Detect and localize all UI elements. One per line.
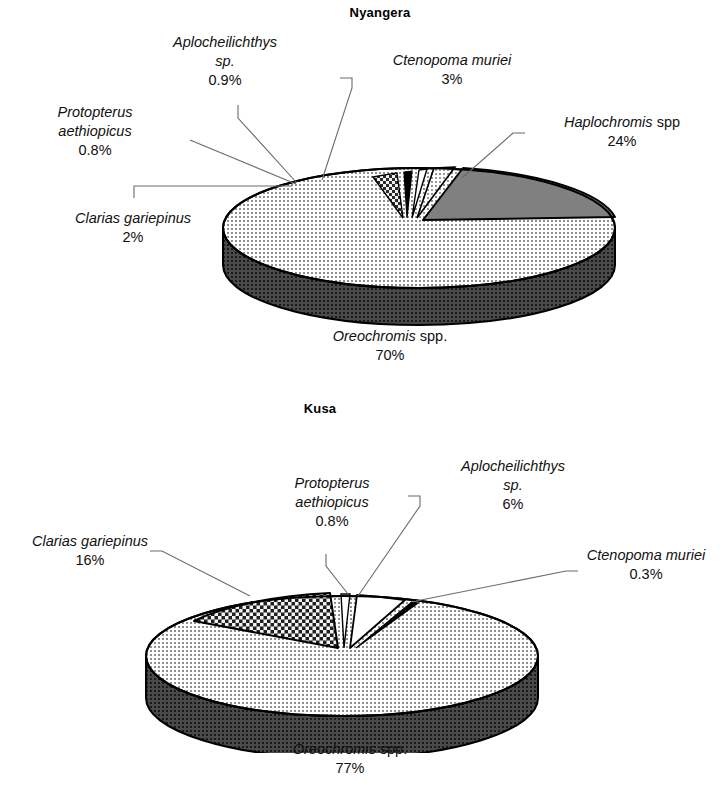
label-genus: Oreochromis	[333, 328, 416, 344]
label-percent: 0.8%	[242, 512, 422, 531]
label-genus-line: Oreochromis spp.	[270, 327, 510, 346]
label-epithet: spp.	[420, 328, 447, 344]
label-epithet: spp.	[380, 741, 407, 757]
label-genus: Protopterus	[0, 103, 190, 122]
label-genus: Protopterus	[242, 474, 422, 493]
label-ctenopoma-kusa: Ctenopoma muriei 0.3%	[566, 546, 726, 584]
pie-chart-nyangera	[215, 160, 625, 335]
label-genus: Ctenopoma muriei	[342, 51, 562, 70]
label-oreochromis-nyangera: Oreochromis spp. 70%	[270, 327, 510, 365]
label-genus: Haplochromis	[564, 114, 653, 130]
label-percent: 16%	[0, 551, 180, 570]
label-percent: 0.9%	[130, 71, 320, 90]
label-epithet: spp	[657, 114, 680, 130]
chart-title-kusa: Kusa	[220, 401, 420, 416]
chart-title-nyangera: Nyangera	[280, 5, 480, 20]
chart-panel-kusa: Kusa	[0, 396, 726, 794]
label-percent: 77%	[230, 759, 470, 778]
chart-panel-nyangera: Nyangera	[0, 0, 726, 396]
label-clarias-kusa: Clarias gariepinus 16%	[0, 532, 180, 570]
label-percent: 2%	[18, 228, 248, 247]
label-percent: 24%	[518, 132, 726, 151]
label-oreochromis-kusa: Oreochromis spp. 77%	[230, 740, 470, 778]
label-percent: 6%	[418, 495, 608, 514]
label-haplochromis-nyangera: Haplochromis spp 24%	[518, 113, 726, 151]
label-epithet: sp.	[130, 52, 320, 71]
label-percent: 0.3%	[566, 565, 726, 584]
label-percent: 0.8%	[0, 141, 190, 160]
label-genus-line: Haplochromis spp	[518, 113, 726, 132]
label-clarias-nyangera: Clarias gariepinus 2%	[18, 209, 248, 247]
label-percent: 70%	[270, 346, 510, 365]
label-genus: Clarias gariepinus	[18, 209, 248, 228]
label-ctenopoma-nyangera: Ctenopoma muriei 3%	[342, 51, 562, 89]
label-genus: Aplocheilichthys	[418, 457, 608, 476]
label-genus: Clarias gariepinus	[0, 532, 180, 551]
label-epithet: aethiopicus	[242, 493, 422, 512]
label-epithet: sp.	[418, 476, 608, 495]
label-aplocheilichthys-kusa: Aplocheilichthys sp. 6%	[418, 457, 608, 514]
label-aplocheilichthys-nyangera: Aplocheilichthys sp. 0.9%	[130, 33, 320, 90]
label-genus: Aplocheilichthys	[130, 33, 320, 52]
label-epithet: aethiopicus	[0, 122, 190, 141]
label-genus: Ctenopoma muriei	[566, 546, 726, 565]
label-percent: 3%	[342, 70, 562, 89]
label-protopterus-kusa: Protopterus aethiopicus 0.8%	[242, 474, 422, 531]
label-genus: Oreochromis	[293, 741, 376, 757]
pie-chart-kusa	[138, 578, 548, 753]
label-genus-line: Oreochromis spp.	[230, 740, 470, 759]
label-protopterus-nyangera: Protopterus aethiopicus 0.8%	[0, 103, 190, 160]
